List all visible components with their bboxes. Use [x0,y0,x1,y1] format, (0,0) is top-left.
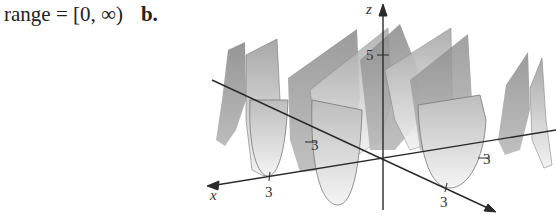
x-axis-label: x [209,187,217,203]
x-tick-label: 3 [265,184,273,200]
z-tick-label: 5 [366,47,374,63]
z-axis-label: z [365,1,372,17]
neg-y-tick-label: 3 [483,151,491,167]
axis-arrow-icon [484,204,496,212]
y-tick-label: 3 [440,194,448,210]
surface-sheets [216,24,552,205]
surface-plot-3d: z 5 x 3 3 3 3 [0,0,556,215]
z-axis-arrow-icon [379,4,387,16]
neg-x-tick-label: 3 [311,137,319,153]
